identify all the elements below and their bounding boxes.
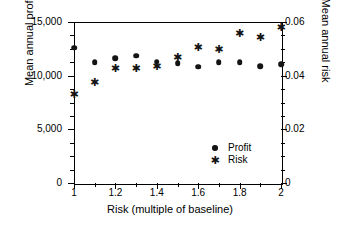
y2-tick-minor: [281, 143, 285, 144]
circle-marker-icon: [258, 63, 264, 69]
y-tick-minor: [70, 116, 74, 117]
x-tick-minor: [260, 183, 261, 187]
y-tick-major: [68, 129, 74, 130]
x-tick-label: 2: [261, 188, 301, 198]
y2-tick-minor: [281, 49, 285, 50]
y-tick-minor: [70, 103, 74, 104]
x-axis-title: Risk (multiple of baseline): [0, 204, 340, 215]
x-tick-label: 1.2: [95, 188, 135, 198]
circle-marker-icon: [278, 62, 284, 68]
y-axis-title-right: Mean annual risk: [320, 0, 331, 121]
circle-marker-icon: [216, 59, 222, 65]
x-tick-label: 1: [54, 188, 94, 198]
circle-marker-icon: [92, 59, 98, 65]
y-tick-minor: [70, 35, 74, 36]
asterisk-marker-icon: ✱: [131, 66, 140, 72]
circle-marker-icon: [195, 64, 201, 70]
legend-item: ✱Risk: [208, 154, 251, 166]
x-tick-minor: [95, 183, 96, 187]
x-tick-minor: [136, 183, 137, 187]
y2-tick-minor: [281, 89, 285, 90]
y2-tick-minor: [281, 103, 285, 104]
y-tick-label-right: 0.02: [285, 124, 304, 134]
legend: Profit✱Risk: [208, 142, 251, 166]
y-tick-label-right: 0: [285, 178, 291, 188]
asterisk-marker-icon: ✱: [214, 47, 223, 53]
y-tick-minor: [70, 143, 74, 144]
y2-tick-minor: [281, 116, 285, 117]
y-tick-minor: [70, 62, 74, 63]
y-tick-minor: [70, 156, 74, 157]
y-tick-major: [68, 22, 74, 23]
x-tick-label: 1.6: [178, 188, 218, 198]
chart-screenshot: Mean annual profit Mean annual risk Risk…: [0, 0, 340, 225]
legend-label: Profit: [228, 142, 251, 154]
circle-marker-icon: [133, 53, 139, 59]
y2-tick-minor: [281, 156, 285, 157]
y-tick-label-right: 0.06: [285, 17, 304, 27]
asterisk-marker-icon: ✱: [173, 55, 182, 61]
y-tick-label-left: 15,000: [2, 17, 62, 27]
y-tick-label-left: 5,000: [2, 124, 62, 134]
y2-tick-minor: [281, 35, 285, 36]
asterisk-marker-icon: ✱: [152, 64, 161, 70]
circle-marker-icon: [113, 55, 119, 61]
asterisk-marker-icon: ✱: [69, 91, 78, 97]
circle-marker-icon: [71, 45, 77, 51]
x-tick-minor: [178, 183, 179, 187]
x-tick-minor: [219, 183, 220, 187]
y-tick-label-left: 0: [2, 178, 62, 188]
legend-label: Risk: [228, 154, 247, 166]
y-tick-major: [68, 76, 74, 77]
y-tick-label-left: 10,000: [2, 71, 62, 81]
asterisk-marker-icon: ✱: [256, 34, 265, 40]
circle-marker-icon: [208, 142, 222, 154]
asterisk-marker-icon: ✱: [111, 66, 120, 72]
circle-marker-icon: [237, 59, 243, 65]
y2-tick-minor: [281, 170, 285, 171]
legend-item: Profit: [208, 142, 251, 154]
y-tick-label-right: 0.04: [285, 71, 304, 81]
asterisk-marker-icon: ✱: [208, 154, 222, 166]
asterisk-marker-icon: ✱: [194, 45, 203, 51]
x-tick-label: 1.4: [137, 188, 177, 198]
asterisk-marker-icon: ✱: [235, 31, 244, 37]
asterisk-marker-icon: ✱: [90, 79, 99, 85]
y-tick-minor: [70, 170, 74, 171]
x-tick-label: 1.8: [220, 188, 260, 198]
